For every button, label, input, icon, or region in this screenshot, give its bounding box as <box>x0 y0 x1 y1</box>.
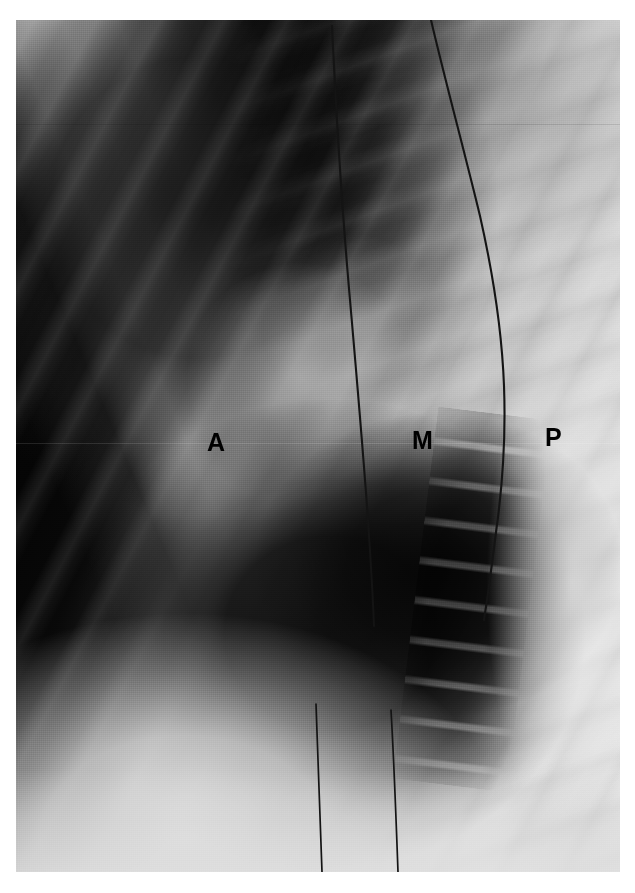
radiograph-image <box>16 20 620 872</box>
wire-2 <box>431 20 505 620</box>
annotation-label-anterior: A <box>207 430 225 455</box>
wire-0 <box>332 26 374 626</box>
wire-3 <box>391 710 398 872</box>
annotation-label-middle: M <box>412 428 433 453</box>
annotation-label-posterior: P <box>545 425 562 450</box>
wire-1 <box>316 704 322 872</box>
radiograph-page: A M P <box>0 0 635 893</box>
catheter-wires-overlay <box>16 20 620 872</box>
